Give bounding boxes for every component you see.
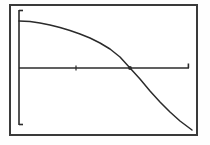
x-axis-group: [19, 64, 189, 71]
graph-screenshot: [0, 0, 210, 145]
plot-area: [0, 0, 210, 145]
parabola-curve: [19, 21, 192, 130]
x-intercept-marker: [128, 66, 132, 70]
